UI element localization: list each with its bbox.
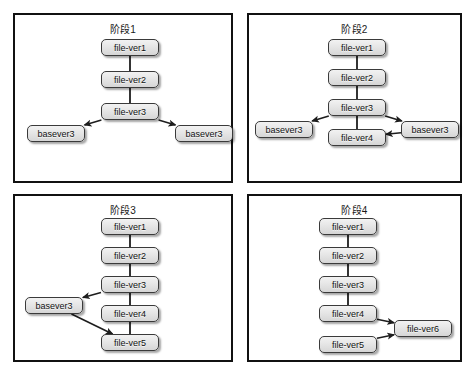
node-label: file-ver1 <box>332 222 364 232</box>
node-label: file-ver1 <box>114 43 146 53</box>
node-label: file-ver1 <box>341 43 373 53</box>
edge-p1-fv3-to-p1-br <box>159 120 176 125</box>
panel-2-title: 阶段2 <box>249 21 460 36</box>
node-label: file-ver5 <box>114 338 146 348</box>
node-label: basever3 <box>35 301 72 311</box>
node-p2-br: basever3 <box>401 121 459 138</box>
panel-2: 阶段2file-ver1file-ver2file-ver3file-ver4b… <box>247 13 462 183</box>
node-p2-fv4: file-ver4 <box>328 129 386 146</box>
node-label: file-ver4 <box>341 133 373 143</box>
node-label: file-ver2 <box>341 73 373 83</box>
node-p4-fv4: file-ver4 <box>319 305 377 322</box>
panel-4-title: 阶段4 <box>249 202 460 217</box>
node-label: file-ver6 <box>407 324 439 334</box>
node-p1-fv1: file-ver1 <box>101 39 159 56</box>
node-p4-fv5: file-ver5 <box>319 336 377 353</box>
edge-p4-fv5-to-p4-fv6 <box>377 335 394 339</box>
node-label: file-ver2 <box>114 251 146 261</box>
node-p1-fv3: file-ver3 <box>101 103 159 120</box>
node-p4-fv1: file-ver1 <box>319 218 377 235</box>
node-p4-fv3: file-ver3 <box>319 276 377 293</box>
panel-3: 阶段3file-ver1file-ver2file-ver3file-ver4f… <box>13 194 233 362</box>
node-label: basever3 <box>411 125 448 135</box>
node-label: file-ver1 <box>114 222 146 232</box>
edge-p4-fv4-to-p4-fv6 <box>377 319 394 322</box>
node-p3-fv5: file-ver5 <box>101 334 159 351</box>
node-label: file-ver3 <box>332 280 364 290</box>
node-p2-fv2: file-ver2 <box>328 69 386 86</box>
edge-p2-br-to-p2-fv4 <box>386 133 401 135</box>
node-label: file-ver4 <box>332 309 364 319</box>
edge-p2-fv3-to-p2-bl <box>312 116 329 121</box>
node-label: basever3 <box>37 129 74 139</box>
node-p1-fv2: file-ver2 <box>101 71 159 88</box>
node-p1-bl: basever3 <box>27 125 85 142</box>
node-label: file-ver5 <box>332 340 364 350</box>
node-p3-fv3: file-ver3 <box>101 276 159 293</box>
node-p2-fv3: file-ver3 <box>328 99 386 116</box>
panel-1: 阶段1file-ver1file-ver2file-ver3basever3ba… <box>13 13 233 183</box>
node-p3-fv1: file-ver1 <box>101 218 159 235</box>
node-label: file-ver2 <box>332 251 364 261</box>
node-p4-fv2: file-ver2 <box>319 247 377 264</box>
node-p1-br: basever3 <box>175 125 233 142</box>
node-p2-fv1: file-ver1 <box>328 39 386 56</box>
version-evolution-figure: 阶段1file-ver1file-ver2file-ver3basever3ba… <box>0 0 475 375</box>
node-label: file-ver3 <box>341 103 373 113</box>
edge-p2-fv3-to-p2-br <box>385 116 402 121</box>
node-label: file-ver2 <box>114 75 146 85</box>
panel-4: 阶段4file-ver1file-ver2file-ver3file-ver4f… <box>247 194 462 362</box>
panel-3-title: 阶段3 <box>15 202 231 217</box>
node-label: file-ver4 <box>114 309 146 319</box>
node-label: file-ver3 <box>114 280 146 290</box>
node-p3-fv4: file-ver4 <box>101 305 159 322</box>
node-p3-base: basever3 <box>25 297 83 314</box>
edge-p3-fv3-to-p3-base <box>83 293 101 298</box>
node-p3-fv2: file-ver2 <box>101 247 159 264</box>
panel-1-title: 阶段1 <box>15 21 231 36</box>
edge-p1-fv3-to-p1-bl <box>85 120 102 125</box>
node-label: basever3 <box>185 129 222 139</box>
node-label: basever3 <box>265 125 302 135</box>
node-p4-fv6: file-ver6 <box>394 320 452 337</box>
node-p2-bl: basever3 <box>255 121 313 138</box>
node-label: file-ver3 <box>114 107 146 117</box>
